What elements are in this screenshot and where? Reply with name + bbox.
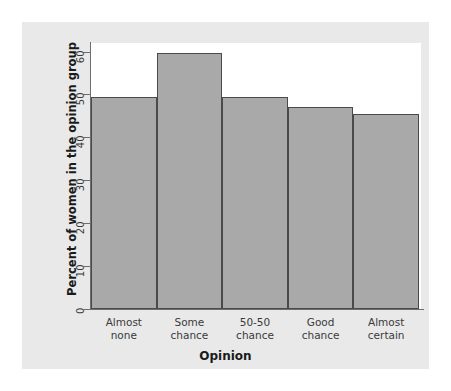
x-axis-tick-label: 50-50chance <box>222 316 288 342</box>
bar <box>222 97 288 309</box>
x-axis-tick-label-line: Almost <box>91 316 157 329</box>
x-axis-line <box>84 309 424 310</box>
y-axis-line <box>90 42 91 310</box>
x-axis-tick-label-line: certain <box>353 329 419 342</box>
y-axis-tick-label: 60 <box>75 50 86 108</box>
figure-panel: Percent of women in the opinion group Op… <box>22 22 429 369</box>
bar <box>288 107 354 309</box>
bar <box>91 97 157 309</box>
x-axis-tick-label-line: chance <box>157 329 223 342</box>
x-axis-tick-label: Somechance <box>157 316 223 342</box>
bar <box>353 114 419 309</box>
bar <box>157 53 223 309</box>
x-axis-tick-label: Goodchance <box>288 316 354 342</box>
x-axis-tick-label-line: chance <box>222 329 288 342</box>
plot-area <box>91 43 419 309</box>
x-axis-tick-label-line: none <box>91 329 157 342</box>
x-axis-tick-label-line: Good <box>288 316 354 329</box>
x-axis-tick-label: Almostcertain <box>353 316 419 342</box>
x-axis-tick-label-line: Some <box>157 316 223 329</box>
x-axis-tick-label: Almostnone <box>91 316 157 342</box>
x-axis-tick-label-line: Almost <box>353 316 419 329</box>
x-axis-tick-label-line: chance <box>288 329 354 342</box>
x-axis-tick-label-line: 50-50 <box>222 316 288 329</box>
